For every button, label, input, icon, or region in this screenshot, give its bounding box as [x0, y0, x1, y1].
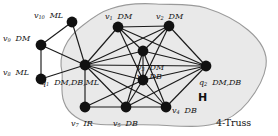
node-name-v1: v1 — [105, 12, 113, 21]
node-attrs-v5: DB — [126, 119, 138, 128]
node-label-v2: v2 DM — [156, 6, 183, 22]
region-label-h: H — [198, 92, 207, 103]
node-label-v10: v10 ML — [34, 5, 63, 21]
graph-node-q1[interactable] — [80, 60, 91, 71]
node-attrs-v1: DM — [118, 12, 132, 21]
node-attrs-v4: DB — [185, 106, 197, 115]
node-label-v5: v5 DB — [113, 113, 138, 129]
node-name-v10: v10 — [34, 11, 45, 20]
node-name-v2: v2 — [156, 12, 164, 21]
graph-node-v1[interactable] — [113, 22, 124, 33]
graph-node-v4[interactable] — [161, 102, 172, 113]
node-attrs-q2: DM,DB — [212, 78, 241, 87]
node-name-v7: v7 — [71, 119, 79, 128]
node-label-v6: v6 DB — [137, 66, 162, 82]
figure-canvas: v10 MLv9 DMv8 MLq1 DM,DB,MLv1 DMv2 DMv3 … — [0, 0, 278, 136]
node-name-v6: v6 — [137, 72, 145, 81]
graph-node-v10[interactable] — [67, 17, 78, 28]
node-label-v8: v8 ML — [3, 62, 29, 78]
node-name-v8: v8 — [3, 68, 11, 77]
node-name-v9: v9 — [3, 34, 11, 43]
node-attrs-v6: DB — [150, 72, 162, 81]
node-attrs-v10: ML — [50, 11, 63, 20]
node-label-v9: v9 DM — [3, 28, 30, 44]
node-name-q2: q2 — [199, 78, 207, 87]
node-label-v4: v4 DB — [172, 100, 197, 116]
node-label-q2: q2 DM,DB — [199, 72, 241, 88]
node-label-q1: q1 DM,DB,ML — [41, 72, 99, 88]
node-attrs-v9: DM — [16, 34, 30, 43]
node-name-v5: v5 — [113, 119, 121, 128]
node-attrs-q1: DM,DB,ML — [54, 78, 99, 87]
truss-label: 4-Truss — [216, 118, 251, 128]
node-label-v7: v7 IR — [71, 113, 93, 129]
node-name-q1: q1 — [41, 78, 49, 87]
node-attrs-v7: IR — [84, 119, 93, 128]
node-name-v4: v4 — [172, 106, 180, 115]
node-attrs-v2: DM — [169, 12, 183, 21]
graph-node-v9[interactable] — [36, 40, 47, 51]
node-label-v1: v1 DM — [105, 6, 132, 22]
node-attrs-v8: ML — [16, 68, 29, 77]
